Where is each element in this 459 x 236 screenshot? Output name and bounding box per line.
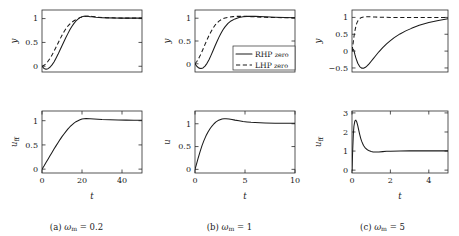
y-tick-label: 0.5 bbox=[178, 37, 191, 46]
plot-frame bbox=[352, 111, 448, 173]
x-tick-label: 0 bbox=[39, 176, 44, 185]
panel-b-top-plot: 00.51yRHPzeroLHPzero bbox=[153, 0, 306, 105]
x-tick-label: 20 bbox=[77, 176, 87, 185]
x-tick-label: 0 bbox=[349, 176, 354, 185]
panel-a-bottom-plot: 00.5102040ufft bbox=[0, 105, 153, 205]
y-tick-label: 3 bbox=[343, 109, 348, 118]
y-tick-label: 1 bbox=[343, 147, 348, 156]
x-axis-label: t bbox=[90, 191, 94, 201]
caption-a-sub: m bbox=[71, 225, 77, 232]
figure-root: 00.51y 00.5102040ufft (a) ωm = 0.2 00.51… bbox=[0, 0, 459, 236]
y-axis-label: uff bbox=[313, 136, 324, 146]
y-tick-label: 0 bbox=[33, 62, 38, 71]
caption-a: (a) ωm = 0.2 bbox=[0, 222, 153, 232]
y-tick-label: 0 bbox=[186, 60, 191, 69]
y-tick-label: 1 bbox=[186, 120, 191, 129]
x-axis-label: t bbox=[243, 191, 247, 201]
caption-b-eq: = 1 bbox=[237, 222, 252, 232]
y-tick-label: 1 bbox=[186, 14, 191, 23]
panel-c: −0.500.51y 0123024ufft (c) ωm = 5 bbox=[306, 0, 459, 236]
series-lhp-zero bbox=[42, 16, 142, 66]
series-u-ff bbox=[352, 120, 448, 170]
y-tick-label: 1 bbox=[33, 117, 38, 126]
y-axis-label: y bbox=[9, 38, 19, 44]
caption-c: (c) ωm = 5 bbox=[306, 222, 459, 232]
series-u-ff bbox=[42, 119, 142, 170]
caption-c-sub: m bbox=[381, 225, 387, 232]
panel-a: 00.51y 00.5102040ufft (a) ωm = 0.2 bbox=[0, 0, 153, 236]
y-axis-label: uff bbox=[9, 136, 20, 146]
y-axis-label: y bbox=[162, 38, 172, 44]
caption-b-sub: m bbox=[228, 225, 234, 232]
legend: RHPzeroLHPzero bbox=[233, 46, 295, 70]
legend-label: RHPzero bbox=[255, 50, 289, 59]
y-tick-label: 0 bbox=[186, 165, 191, 174]
x-tick-label: 0 bbox=[192, 176, 197, 185]
y-tick-label: 0 bbox=[343, 166, 348, 175]
caption-c-eq: = 5 bbox=[390, 222, 405, 232]
y-tick-label: 1 bbox=[343, 13, 348, 22]
series-u bbox=[195, 119, 295, 170]
x-tick-label: 2 bbox=[388, 176, 393, 185]
panel-c-bottom-plot: 0123024ufft bbox=[306, 105, 459, 205]
plot-frame bbox=[42, 10, 142, 72]
panel-b-bottom-plot: 00.510510ut bbox=[153, 105, 306, 205]
y-tick-label: 0.5 bbox=[25, 38, 38, 47]
x-tick-label: 4 bbox=[426, 176, 431, 185]
caption-b-tag: (b) bbox=[207, 222, 219, 232]
caption-a-tag: (a) bbox=[50, 222, 62, 232]
y-tick-label: −0.5 bbox=[329, 64, 348, 73]
plot-frame bbox=[352, 10, 448, 72]
y-tick-label: 0.5 bbox=[335, 30, 348, 39]
y-axis-label: y bbox=[313, 38, 323, 44]
caption-c-tag: (c) bbox=[360, 222, 371, 232]
y-tick-label: 1 bbox=[33, 14, 38, 23]
x-tick-label: 40 bbox=[117, 176, 127, 185]
series-rhp-zero bbox=[352, 19, 448, 69]
caption-b: (b) ωm = 1 bbox=[153, 222, 306, 232]
caption-a-eq: = 0.2 bbox=[80, 222, 103, 232]
x-tick-label: 10 bbox=[290, 176, 300, 185]
x-axis-label: t bbox=[398, 191, 402, 201]
legend-label: LHPzero bbox=[255, 61, 288, 70]
panel-a-top-plot: 00.51y bbox=[0, 0, 153, 105]
x-tick-label: 5 bbox=[242, 176, 247, 185]
series-rhp-zero bbox=[42, 16, 142, 69]
y-tick-label: 0 bbox=[33, 165, 38, 174]
panel-b: 00.51yRHPzeroLHPzero 00.510510ut (b) ωm … bbox=[153, 0, 306, 236]
panel-c-top-plot: −0.500.51y bbox=[306, 0, 459, 105]
y-tick-label: 0 bbox=[343, 47, 348, 56]
plot-frame bbox=[195, 111, 295, 173]
y-axis-label: u bbox=[162, 139, 172, 144]
y-tick-label: 0.5 bbox=[25, 141, 38, 150]
y-tick-label: 2 bbox=[343, 128, 348, 137]
y-tick-label: 0.5 bbox=[178, 142, 191, 151]
